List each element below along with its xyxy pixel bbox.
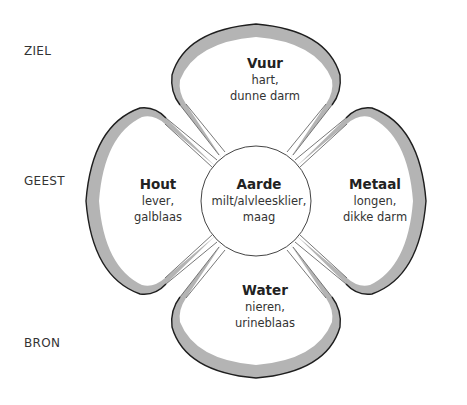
- organs-line: milt/alvleesklier,: [212, 193, 307, 209]
- organs-line: urineblaas: [235, 315, 295, 331]
- organs-line: dunne darm: [230, 88, 300, 104]
- element-name: Hout: [134, 176, 182, 193]
- petal-left-label: Hout lever, galblaas: [134, 176, 182, 225]
- organs-line: dikke darm: [343, 209, 407, 225]
- organs-line: galblaas: [134, 209, 182, 225]
- level-label-bron: BRON: [24, 336, 60, 350]
- organs-line: nieren,: [235, 299, 295, 315]
- organs-line: lever,: [134, 193, 182, 209]
- organs-line: maag: [212, 209, 307, 225]
- element-name: Metaal: [343, 176, 407, 193]
- level-label-geest: GEEST: [24, 174, 65, 188]
- element-name: Water: [235, 282, 295, 299]
- organs-line: longen,: [343, 193, 407, 209]
- level-label-ziel: ZIEL: [24, 44, 51, 58]
- organs-line: hart,: [230, 72, 300, 88]
- petal-right-label: Metaal longen, dikke darm: [343, 176, 407, 225]
- element-name: Aarde: [212, 176, 307, 193]
- element-name: Vuur: [230, 55, 300, 72]
- center-label: Aarde milt/alvleesklier, maag: [212, 176, 307, 225]
- petal-bottom-label: Water nieren, urineblaas: [235, 282, 295, 331]
- petal-top-label: Vuur hart, dunne darm: [230, 55, 300, 104]
